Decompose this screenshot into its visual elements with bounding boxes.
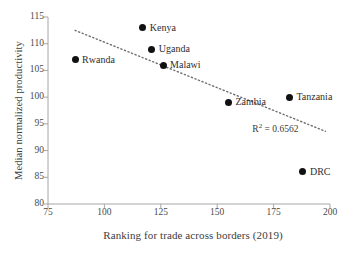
- data-point-label-malawi: Malawi: [170, 60, 201, 70]
- data-point-label-rwanda: Rwanda: [82, 55, 115, 65]
- r-squared-value: = 0.6562: [262, 124, 298, 134]
- data-point-zambia[interactable]: [225, 99, 232, 106]
- x-tick-label: 100: [89, 208, 119, 218]
- data-point-uganda[interactable]: [148, 46, 155, 53]
- data-point-rwanda[interactable]: [72, 56, 79, 63]
- data-point-label-kenya: Kenya: [150, 23, 176, 33]
- data-point-label-drc: DRC: [310, 167, 331, 177]
- x-axis-title: Ranking for trade across borders (2019): [48, 229, 338, 241]
- x-tick-label: 175: [259, 208, 289, 218]
- x-tick-label: 75: [33, 208, 63, 218]
- data-point-label-uganda: Uganda: [159, 44, 190, 54]
- r-squared-annotation: R2 = 0.6562: [252, 123, 298, 135]
- scatter-chart: Median normalized productivity 808590951…: [0, 0, 358, 254]
- trendline-segment: [75, 30, 325, 131]
- data-point-malawi[interactable]: [160, 62, 167, 69]
- data-point-tanzania[interactable]: [286, 94, 293, 101]
- x-tick-label: 125: [146, 208, 176, 218]
- x-tick-label: 200: [315, 208, 345, 218]
- data-point-label-zambia: Zambia: [235, 97, 266, 107]
- trendline: [75, 30, 325, 131]
- data-point-label-tanzania: Tanzania: [296, 92, 332, 102]
- x-tick-label: 150: [202, 208, 232, 218]
